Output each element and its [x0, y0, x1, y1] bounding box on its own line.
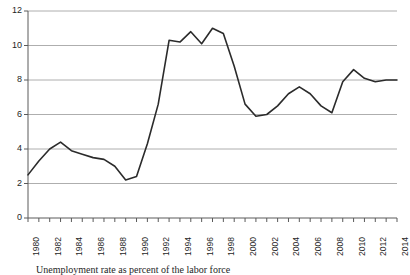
chart-caption: Unemployment rate as percent of the labo…	[36, 264, 396, 275]
x-axis-tick-label: 1996	[206, 237, 215, 256]
data-series-line	[28, 28, 397, 180]
x-axis-tick-label: 2010	[358, 237, 367, 256]
y-axis-tick-label: 12	[2, 6, 22, 15]
x-axis-tick-label: 2000	[249, 237, 258, 256]
x-axis-tick-label: 2002	[271, 237, 280, 256]
y-axis-tick-label: 4	[2, 144, 22, 153]
x-axis-tick-label: 1984	[75, 237, 84, 256]
x-axis-tick-label: 1994	[184, 237, 193, 256]
x-axis-tick-label: 1992	[162, 237, 171, 256]
x-axis-tick-label: 2006	[314, 237, 323, 256]
x-axis-tick-label: 1998	[227, 237, 236, 256]
x-axis-tick-label: 1988	[119, 237, 128, 256]
y-axis-tick-label: 6	[2, 110, 22, 119]
gridlines-group	[24, 11, 397, 218]
x-axis-tick-label: 1980	[32, 237, 41, 256]
x-axis-ticks-group	[28, 218, 397, 222]
x-axis-tick-label: 1986	[97, 237, 106, 256]
x-axis-tick-label: 2008	[336, 237, 345, 256]
y-axis-tick-label: 8	[2, 75, 22, 84]
y-axis-tick-label: 2	[2, 179, 22, 188]
x-axis-tick-label: 1982	[54, 237, 63, 256]
x-axis-tick-label: 2004	[292, 237, 301, 256]
x-axis-tick-label: 2014	[401, 237, 410, 256]
y-axis-tick-label: 0	[2, 213, 22, 222]
x-axis-tick-label: 1990	[141, 237, 150, 256]
x-axis-tick-label: 2012	[379, 237, 388, 256]
y-axis-tick-label: 10	[2, 41, 22, 50]
